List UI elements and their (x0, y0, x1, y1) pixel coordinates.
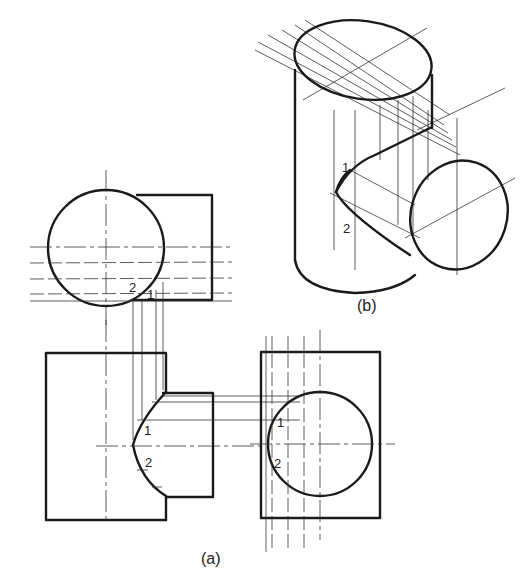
point-label-1: 1 (144, 423, 151, 438)
top-view: 2 1 (30, 170, 232, 325)
branch-cylinder-end-ellipse (396, 148, 521, 282)
branch-cylinder-outline-top (133, 195, 212, 300)
main-cylinder-outline-side (261, 352, 380, 518)
point-label-2: 2 (274, 456, 281, 471)
side-view: 1 2 (250, 330, 395, 552)
point-label-2: 2 (145, 455, 152, 470)
cutting-plane-line (30, 262, 232, 263)
point-label-1: 1 (147, 287, 154, 302)
caption-pictorial: (b) (357, 297, 377, 314)
point-label-1: 1 (277, 415, 284, 430)
branch-cylinder-outline-front (163, 393, 213, 497)
drawing-canvas: 2 1 1 2 1 2 (0, 0, 527, 588)
point-label-2: 2 (343, 221, 350, 236)
point-label-1: 1 (342, 160, 349, 175)
caption-orthographic: (a) (201, 550, 221, 567)
cutting-plane-line (30, 278, 232, 279)
pictorial-view: 1 2 (255, 12, 522, 293)
point-label-2: 2 (129, 280, 136, 295)
